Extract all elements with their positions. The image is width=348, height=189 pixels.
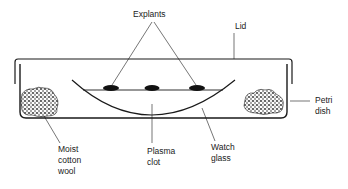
explant-3 — [189, 85, 205, 91]
petri-dish-label: Petri dish — [315, 95, 332, 117]
cotton-wool-leader — [44, 116, 60, 143]
plasma-clot-label: Plasma clot — [147, 146, 175, 168]
explant-1 — [103, 85, 119, 91]
cotton-wool-right — [244, 89, 283, 114]
watch-glass-leader — [202, 108, 215, 141]
explants-label: Explants — [133, 9, 166, 20]
diagram-canvas: Explants Lid Petri dish Moist cotton woo… — [0, 0, 348, 189]
explants-leader-right — [154, 22, 196, 85]
cotton-wool-left — [21, 87, 58, 117]
lid-shape — [15, 59, 292, 84]
moist-cotton-wool-label: Moist cotton wool — [58, 144, 81, 177]
watch-glass-label: Watch glass — [211, 142, 235, 164]
lid-label: Lid — [235, 21, 246, 32]
explant-2 — [145, 85, 160, 91]
explants-leader-left — [112, 22, 152, 85]
